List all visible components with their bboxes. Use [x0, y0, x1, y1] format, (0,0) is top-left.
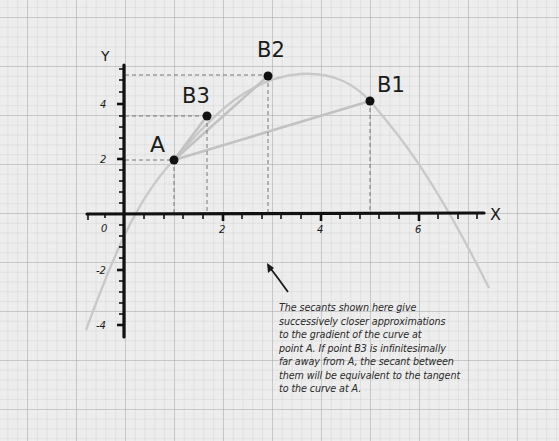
secant-a-b1	[174, 101, 370, 160]
point-label-b1: B1	[377, 73, 405, 97]
annotation-line: The secants shown here give	[279, 301, 479, 315]
point-label-a: A	[150, 132, 165, 157]
x-tick-label-6: 6	[415, 224, 421, 235]
point-b2	[264, 72, 273, 81]
x-axis-label: X	[490, 205, 501, 224]
secant-a-b3	[174, 116, 207, 160]
y-tick-label-neg4: -4	[96, 320, 106, 331]
x-tick-label-0: 0	[101, 223, 107, 234]
annotation-line: point A. If point B3 is infinitesimally	[279, 342, 479, 356]
annotation-line: to the gradient of the curve at	[279, 328, 479, 342]
annotation-line: successively closer approximations	[279, 315, 479, 329]
y-tick-label-neg2: -2	[96, 265, 106, 276]
y-tick-label-4: 4	[100, 99, 106, 110]
annotation-line: far away from A, the secant between	[279, 355, 479, 369]
point-b3	[203, 112, 212, 121]
y-tick-label-2: 2	[100, 154, 106, 165]
point-label-b2: B2	[257, 38, 285, 62]
annotation-line: to the curve at A.	[279, 382, 479, 396]
y-axis-label: Y	[100, 48, 110, 64]
x-axis	[87, 213, 484, 214]
point-label-b3: B3	[182, 84, 210, 108]
x-tick-label-4: 4	[317, 224, 323, 235]
annotation-line: them will be equivalent to the tangent	[279, 369, 479, 383]
annotation-text: The secants shown here give successively…	[279, 301, 479, 396]
arrow-icon	[267, 263, 288, 292]
x-tick-label-2: 2	[219, 224, 225, 235]
point-a	[170, 156, 179, 165]
point-b1	[366, 97, 375, 106]
